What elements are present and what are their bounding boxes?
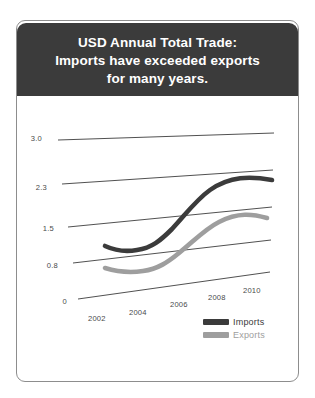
legend-label-imports: Imports — [233, 317, 264, 327]
chart-title-line-3: for many years. — [107, 71, 208, 86]
y-tick-label-3-0: 3.0 — [20, 134, 42, 143]
legend-item-exports: Exports — [203, 330, 265, 340]
legend-swatch-imports — [203, 319, 229, 325]
y-tick-label-2-3: 2.3 — [25, 183, 47, 192]
chart-title-banner: USD Annual Total Trade: Imports have exc… — [17, 23, 298, 96]
chart-title-line-1: USD Annual Total Trade: — [78, 35, 237, 50]
x-tick-label-2004: 2004 — [129, 308, 147, 317]
chart-title-line-2: Imports have exceeded exports — [55, 53, 260, 68]
x-tick-label-2008: 2008 — [208, 293, 226, 302]
y-tick-label-1-5: 1.5 — [32, 224, 54, 233]
legend-label-exports: Exports — [233, 330, 265, 340]
chart-legend: Imports Exports — [203, 317, 265, 340]
y-tick-label-0: 0 — [45, 297, 67, 306]
x-tick-label-2010: 2010 — [243, 286, 261, 295]
y-tick-label-0-8: 0.8 — [36, 261, 58, 270]
x-tick-label-2006: 2006 — [170, 300, 188, 309]
legend-swatch-exports — [203, 332, 229, 338]
x-tick-label-2002: 2002 — [88, 314, 106, 323]
legend-item-imports: Imports — [203, 317, 265, 327]
